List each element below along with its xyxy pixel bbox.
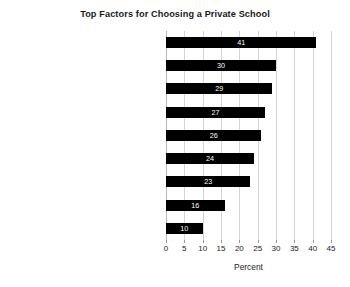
bar: 29: [166, 83, 272, 94]
bar-row: School discipline27: [166, 101, 331, 124]
gridline-45: [331, 31, 332, 240]
bar-value-label: 10: [166, 223, 203, 234]
bar: 41: [166, 37, 316, 48]
x-tick-mark: [276, 240, 277, 243]
x-tick-mark: [331, 240, 332, 243]
bar-rows: Academic reputation41Safety30Instruction…: [166, 31, 331, 240]
bar-value-label: 29: [166, 83, 272, 94]
bar-row: Extracurriculars23: [166, 170, 331, 193]
bar-value-label: 26: [166, 130, 261, 141]
x-tick-mark: [166, 240, 167, 243]
x-tick-mark: [221, 240, 222, 243]
bar-value-label: 30: [166, 60, 276, 71]
x-axis-title: Percent: [166, 262, 331, 272]
x-tick-mark: [239, 240, 240, 243]
bar-value-label: 27: [166, 107, 265, 118]
x-tick-mark: [184, 240, 185, 243]
bar-row: Safety30: [166, 54, 331, 77]
bar-row: Test scores10: [166, 217, 331, 240]
x-tick-label: 45: [320, 244, 342, 253]
bar: 23: [166, 176, 250, 187]
bar-row: Class size26: [166, 124, 331, 147]
bar-value-label: 23: [166, 176, 250, 187]
bar-value-label: 24: [166, 153, 254, 164]
x-tick-mark: [294, 240, 295, 243]
bar: 27: [166, 107, 265, 118]
chart-title: Top Factors for Choosing a Private Schoo…: [0, 9, 350, 19]
bar: 16: [166, 200, 225, 211]
bar-chart: Top Factors for Choosing a Private Schoo…: [0, 0, 350, 287]
bar-row: Academic reputation41: [166, 31, 331, 54]
plot-area: Academic reputation41Safety30Instruction…: [166, 31, 331, 240]
bar-row: School location16: [166, 194, 331, 217]
bar-value-label: 16: [166, 200, 225, 211]
bar: 26: [166, 130, 261, 141]
x-tick-mark: [313, 240, 314, 243]
bar: 30: [166, 60, 276, 71]
x-tick-mark: [203, 240, 204, 243]
bar-row: Amount of individual attention24: [166, 147, 331, 170]
x-tick-mark: [258, 240, 259, 243]
bar: 10: [166, 223, 203, 234]
bar-row: Instruction in character and values29: [166, 77, 331, 100]
bar: 24: [166, 153, 254, 164]
bar-value-label: 41: [166, 37, 316, 48]
